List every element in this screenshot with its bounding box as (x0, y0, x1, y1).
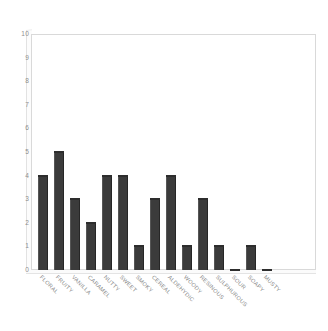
x-axis: FLORALFRUITYVANILLACARAMELNUTTYSWEETSMOK… (31, 272, 316, 330)
x-axis-tick: FLORAL (35, 272, 51, 330)
x-axis-tick: SULPHUROUS (211, 272, 227, 330)
bar-body (70, 199, 80, 270)
bar (163, 34, 179, 270)
bar-body (150, 199, 160, 270)
bar-chart: 109876543210 FLORALFRUITYVANILLACARAMELN… (0, 0, 328, 331)
bar-top-cap (214, 245, 224, 247)
bar-top-cap (198, 198, 208, 200)
bar (99, 34, 115, 270)
bar-top-cap (134, 245, 144, 247)
x-axis-tick: SOUR (227, 272, 243, 330)
bar-body (246, 246, 256, 270)
x-axis-tick: MUSTY (259, 272, 275, 330)
bar-top-cap (230, 269, 240, 271)
bar (115, 34, 131, 270)
x-axis-tick: SMOKY (131, 272, 147, 330)
bar-top-cap (118, 175, 128, 177)
bar-body (54, 152, 64, 270)
y-axis-tick-label: 7 (5, 102, 29, 109)
bar (211, 34, 227, 270)
x-axis-tick: ALDEHYDIC (163, 272, 179, 330)
bar-top-cap (246, 245, 256, 247)
bar-top-cap (262, 269, 272, 271)
bar (67, 34, 83, 270)
x-axis-tick: SOAPY (243, 272, 259, 330)
y-axis-tick-label: 4 (5, 172, 29, 179)
bar-top-cap (70, 198, 80, 200)
y-axis-tick-label: 9 (5, 54, 29, 61)
bar-body (134, 246, 144, 270)
bar (35, 34, 51, 270)
bar (259, 34, 275, 270)
bar (227, 34, 243, 270)
bar-top-cap (38, 175, 48, 177)
bar-top-cap (102, 175, 112, 177)
bar-body (182, 246, 192, 270)
bar-body (214, 246, 224, 270)
x-axis-tick: NUTTY (99, 272, 115, 330)
bar-top-cap (86, 222, 96, 224)
y-axis-tick-label: 0 (5, 267, 29, 274)
x-axis-tick: SWEET (115, 272, 131, 330)
y-axis-tick-label: 2 (5, 220, 29, 227)
bars-layer (31, 34, 316, 270)
x-axis-tick: VANILLA (67, 272, 83, 330)
bar-top-cap (54, 151, 64, 153)
y-axis-tick-label: 5 (5, 149, 29, 156)
x-axis-tick: RESINOUS (195, 272, 211, 330)
bar (243, 34, 259, 270)
bar-body (38, 176, 48, 270)
bar-body (166, 176, 176, 270)
bar-body (118, 176, 128, 270)
x-axis-tick: FRUITY (51, 272, 67, 330)
bar (131, 34, 147, 270)
y-axis-tick-label: 10 (5, 31, 29, 38)
bar (179, 34, 195, 270)
x-axis-tick: CEREAL (147, 272, 163, 330)
x-axis-tick-label: MUSTY (263, 274, 282, 293)
y-axis-tick-label: 3 (5, 196, 29, 203)
bar (195, 34, 211, 270)
y-axis: 109876543210 (0, 0, 29, 331)
bar-top-cap (166, 175, 176, 177)
bar (51, 34, 67, 270)
x-axis-tick: WOODY (179, 272, 195, 330)
x-axis-tick: CARAMEL (83, 272, 99, 330)
y-axis-tick-label: 6 (5, 125, 29, 132)
bar-body (86, 223, 96, 270)
bar-top-cap (182, 245, 192, 247)
bar (83, 34, 99, 270)
bar-top-cap (150, 198, 160, 200)
bar-body (102, 176, 112, 270)
bar (147, 34, 163, 270)
bar-body (198, 199, 208, 270)
y-axis-tick-label: 8 (5, 78, 29, 85)
y-axis-tick-label: 1 (5, 243, 29, 250)
